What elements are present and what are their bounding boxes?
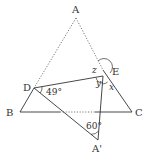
angle-arc-z xyxy=(98,59,112,73)
angle-arc-A-prime xyxy=(91,131,99,134)
label-B: B xyxy=(6,107,13,118)
angle-label-A-prime: 60° xyxy=(86,121,102,131)
segment-DE xyxy=(34,76,103,88)
segment-AD-dotted xyxy=(34,18,76,88)
label-E: E xyxy=(112,66,119,77)
angle-label-D: 49° xyxy=(46,87,62,97)
label-A: A xyxy=(71,4,80,15)
label-D: D xyxy=(23,82,31,93)
geometry-diagram: A B C D E A' 49° 60° z y x xyxy=(0,0,147,160)
angle-arc-x xyxy=(103,82,108,84)
angle-arc-D xyxy=(40,87,42,93)
segment-DA-prime xyxy=(34,88,98,140)
angle-label-y: y xyxy=(95,78,102,88)
angle-label-x: x xyxy=(109,82,114,92)
angle-label-z: z xyxy=(91,65,97,75)
label-A-prime: A' xyxy=(91,143,102,154)
segment-AE-dotted xyxy=(76,18,103,70)
label-C: C xyxy=(135,107,143,118)
